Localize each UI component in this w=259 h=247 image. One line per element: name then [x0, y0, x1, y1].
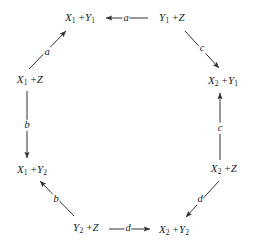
- node-y1z: Y1 +Z: [159, 11, 185, 25]
- node-x2y1: X2 +Y1: [208, 74, 238, 88]
- edge-label-c-diagonal: c: [199, 43, 206, 54]
- edge-label-d-diagonal: d: [196, 194, 203, 205]
- edge-label-b-diagonal: b: [52, 194, 59, 205]
- node-x1y2: X1 +Y2: [17, 163, 47, 177]
- edge-label-c-right: c: [217, 123, 224, 134]
- node-x1z: X1 +Z: [17, 73, 43, 87]
- commutative-diagram: X1 +Y1 Y1 +Z X2 +Y1 X2 +Z X2 +Y2 Y2 +Z X…: [0, 0, 259, 247]
- edge-label-a-top: a: [122, 13, 129, 24]
- edge-label-a-diagonal: a: [43, 47, 50, 58]
- node-x1y1: X1 +Y1: [65, 11, 95, 25]
- node-y2z: Y2 +Z: [73, 221, 99, 235]
- edge-label-d-bottom: d: [124, 223, 131, 234]
- node-x2z: X2 +Z: [211, 162, 237, 176]
- node-x2y2: X2 +Y2: [159, 223, 189, 237]
- edge-label-b-left: b: [23, 120, 30, 131]
